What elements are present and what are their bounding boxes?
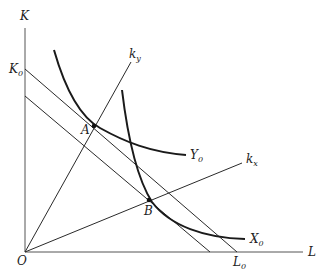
ray-kx <box>25 163 242 252</box>
isocost-line-inner <box>25 96 210 252</box>
y0-label: Y0 <box>190 148 203 164</box>
isoquant-x0 <box>122 90 245 239</box>
factor-diagram: K L O K0 L0 ky kx Y0 X0 A B <box>0 0 322 276</box>
point-a-label: A <box>80 123 90 137</box>
point-b-dot <box>147 198 152 203</box>
isocost-line-outer <box>25 69 237 252</box>
point-b-label: B <box>143 204 153 218</box>
x0-label: X0 <box>249 232 264 248</box>
isoquant-y0 <box>54 50 186 155</box>
l-axis-label: L <box>307 245 316 259</box>
kx-label: kx <box>246 152 258 168</box>
ray-ky <box>25 62 131 252</box>
k0-label: K0 <box>8 62 23 78</box>
k-axis-label: K <box>19 9 30 23</box>
point-a-dot <box>92 124 97 129</box>
l0-label: L0 <box>232 255 246 271</box>
origin-label: O <box>17 254 27 268</box>
ky-label: ky <box>129 47 141 63</box>
